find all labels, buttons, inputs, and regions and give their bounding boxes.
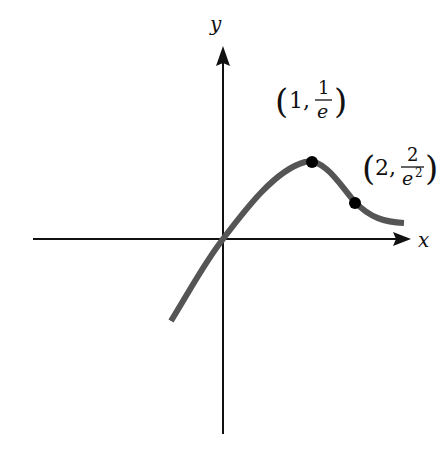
function-graph: y x ( 1, 1 e ) ( 2, 2 e 2 ) <box>0 0 448 456</box>
p1-main: 1, <box>289 88 310 113</box>
inflection-point-label: ( 2, 2 e 2 ) <box>362 144 438 189</box>
p2-lparen: ( <box>362 148 375 188</box>
p1-rparen: ) <box>334 81 347 121</box>
p2-den: e <box>402 167 413 189</box>
max-point-label: ( 1, 1 e ) <box>275 77 347 122</box>
max-point-dot <box>306 156 318 168</box>
p1-num: 1 <box>318 77 329 98</box>
p1-den: e <box>317 100 328 122</box>
y-axis-arrow-icon <box>216 46 230 66</box>
p2-main: 2, <box>375 155 396 180</box>
p2-num: 2 <box>407 144 418 165</box>
y-axis-label: y <box>209 12 222 36</box>
x-axis-label: x <box>418 228 429 252</box>
p2-rparen: ) <box>425 148 438 188</box>
inflection-point-dot <box>349 197 361 209</box>
p2-sup: 2 <box>415 166 423 180</box>
p1-lparen: ( <box>275 81 288 121</box>
